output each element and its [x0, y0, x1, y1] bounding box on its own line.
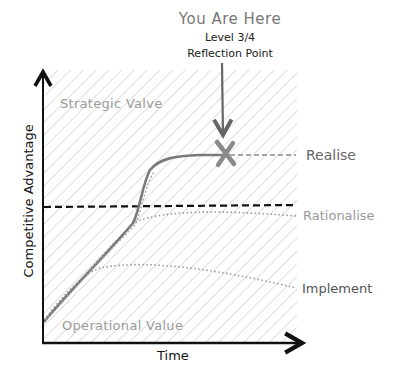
- callout-subtitle: Reflection Point: [140, 47, 320, 60]
- implement-label: Implement: [302, 281, 372, 296]
- callout-level: Level 3/4: [140, 31, 320, 44]
- x-axis-label: Time: [157, 348, 189, 363]
- realise-label: Realise: [306, 147, 356, 163]
- y-axis-label: Competitive Advantage: [21, 138, 36, 278]
- rationalise-label: Rationalise: [303, 208, 375, 223]
- strategic-region-label: Strategic Valve: [60, 96, 163, 111]
- callout-arrow: [222, 63, 223, 135]
- callout-title: You Are Here: [140, 10, 320, 28]
- operational-region-label: Operational Value: [62, 318, 183, 333]
